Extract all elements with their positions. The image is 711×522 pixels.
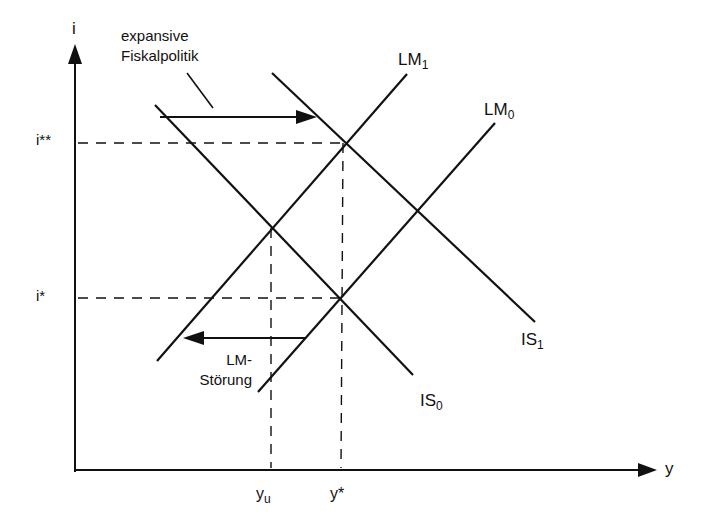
yu-label: yu [256, 486, 271, 505]
y-axis [68, 44, 82, 472]
i-star-label: i* [36, 288, 45, 303]
fiscal-policy-annotation: expansive Fiskalpolitik [121, 26, 199, 66]
is-lm-diagram [0, 0, 711, 522]
is1-label: IS1 [521, 331, 544, 351]
x-axis [75, 463, 657, 477]
curve-lm0 [258, 123, 495, 392]
lm1-label: LM1 [398, 51, 428, 71]
y-axis-arrow-icon [68, 44, 82, 64]
guide-y-star [341, 143, 343, 468]
i-double-star-label: i** [36, 132, 51, 147]
lm-shock-annotation: LM- Störung [178, 350, 252, 390]
fiscal-leader-line [187, 73, 213, 108]
lm0-label: LM0 [484, 101, 514, 121]
x-axis-arrow-icon [638, 463, 657, 477]
y-axis-label: i [72, 20, 76, 37]
x-axis-label: y [665, 460, 674, 477]
y-star-label: y* [330, 486, 344, 502]
lm-shock-arrow-head-icon [183, 331, 204, 345]
is0-label: IS0 [420, 392, 443, 412]
